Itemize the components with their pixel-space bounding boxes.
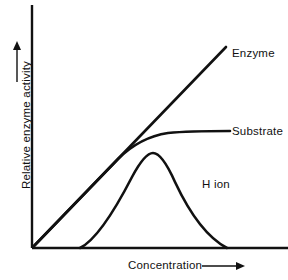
series-label-h-ion: H ion — [202, 178, 230, 190]
series-label-enzyme: Enzyme — [232, 47, 275, 59]
chart-plot-area — [0, 0, 288, 280]
x-axis-arrow — [200, 259, 246, 273]
chart-figure: Enzyme Substrate H ion Concentration Rel… — [0, 0, 288, 280]
series-label-substrate: Substrate — [232, 125, 283, 137]
series-curve-substrate — [33, 131, 230, 247]
y-axis-title: Relative enzyme activity — [20, 35, 32, 215]
series-curve-h-ion — [80, 153, 227, 248]
x-axis-title: Concentration — [128, 259, 202, 271]
